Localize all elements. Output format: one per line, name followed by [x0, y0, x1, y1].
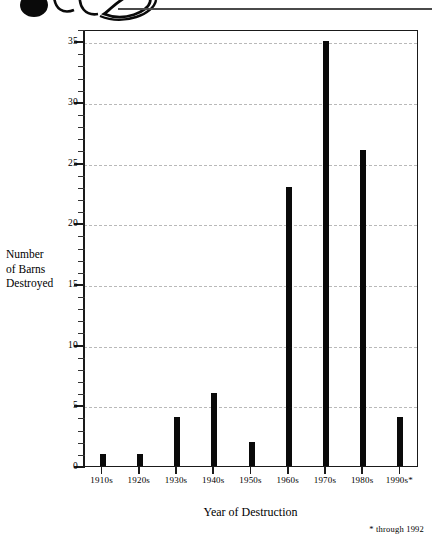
x-axis: 1910s1920s1930s1940s1950s1960s1970s1980s… [83, 467, 418, 497]
y-axis-tick-minor [78, 115, 85, 116]
x-axis-tick [101, 467, 103, 474]
y-axis-tick-minor [78, 66, 85, 67]
y-axis-tick-minor [78, 309, 85, 310]
flourish-icon [0, 0, 432, 24]
x-axis-tick [138, 467, 140, 474]
x-axis-tick-label: 1960s [276, 476, 299, 485]
y-axis-title: Number of Barns Destroyed [6, 247, 80, 291]
gridline [84, 225, 417, 226]
y-axis-tick-label: 20 [68, 219, 78, 229]
plot-area [83, 30, 418, 467]
x-axis-tick [175, 467, 177, 474]
y-axis-tick-minor [78, 431, 85, 432]
bar [249, 442, 255, 466]
x-axis-tick [250, 467, 252, 474]
x-axis-tick-label: 1910s [90, 476, 113, 485]
x-axis-tick [212, 467, 214, 474]
x-axis-tick-label: 1940s [202, 476, 225, 485]
y-axis-tick-label: 25 [68, 159, 78, 169]
x-axis-tick-label: 1920s [128, 476, 151, 485]
decorative-flourish [0, 0, 432, 24]
y-axis-tick-minor [78, 127, 85, 128]
y-axis-tick-minor [78, 139, 85, 140]
x-axis-tick [287, 467, 289, 474]
x-axis-tick-label: 1930s [165, 476, 188, 485]
bar [360, 150, 366, 466]
y-axis-tick-minor [78, 382, 85, 383]
bar [211, 393, 217, 466]
x-axis-tick-label: 1990s* [386, 476, 413, 485]
gridline [84, 347, 417, 348]
x-axis-tick-label: 1950s [239, 476, 262, 485]
y-axis-tick-minor [78, 370, 85, 371]
y-axis-tick-minor [78, 212, 85, 213]
y-axis-tick-minor [78, 394, 85, 395]
y-axis-tick-minor [78, 443, 85, 444]
y-axis-tick-label: 30 [68, 98, 78, 108]
x-axis-tick-label: 1970s [314, 476, 337, 485]
bar [286, 187, 292, 466]
x-axis-tick [399, 467, 401, 474]
bar [323, 41, 329, 466]
gridline [84, 43, 417, 44]
y-axis-tick-minor [78, 188, 85, 189]
y-axis-tick-minor [78, 30, 85, 31]
x-axis-title: Year of Destruction [83, 505, 418, 520]
y-axis-tick-minor [78, 176, 85, 177]
y-axis-tick-minor [78, 79, 85, 80]
bar [174, 417, 180, 466]
y-axis-tick-minor [78, 54, 85, 55]
x-axis-tick [361, 467, 363, 474]
x-axis-tick [324, 467, 326, 474]
y-axis-tick-label: 10 [68, 341, 78, 351]
y-axis-tick-minor [78, 321, 85, 322]
y-axis-tick-minor [78, 91, 85, 92]
y-axis-tick-minor [78, 297, 85, 298]
y-axis-tick-minor [78, 236, 85, 237]
y-axis-tick-minor [78, 333, 85, 334]
bar [397, 417, 403, 466]
y-axis-tick-label: 5 [73, 402, 78, 412]
gridline [84, 286, 417, 287]
footnote: * through 1992 [369, 524, 424, 534]
y-axis-tick-minor [78, 455, 85, 456]
gridline [84, 104, 417, 105]
y-axis-tick-label: 0 [73, 462, 78, 472]
bar [100, 454, 106, 466]
y-axis-tick-minor [78, 418, 85, 419]
x-axis-tick-label: 1980s [351, 476, 374, 485]
y-axis-tick-minor [78, 200, 85, 201]
gridline [84, 407, 417, 408]
y-axis-tick-label: 35 [68, 37, 78, 47]
y-axis-tick-minor [78, 358, 85, 359]
gridline [84, 165, 417, 166]
y-axis-tick-minor [78, 151, 85, 152]
bar [137, 454, 143, 466]
y-axis: 05101520253035 [83, 30, 85, 467]
header-rule [118, 8, 432, 10]
